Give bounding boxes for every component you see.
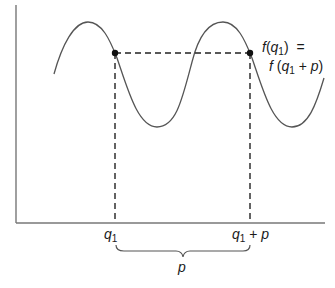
q-symbol: q — [232, 226, 240, 242]
annotation-line-2: f (q1 + p) — [269, 59, 323, 76]
paren-close: ) — [284, 39, 289, 55]
x-label-q1: q1 — [104, 227, 117, 244]
q-symbol: q — [104, 226, 112, 242]
period-label: p — [178, 260, 186, 274]
plus-sign: + — [249, 226, 257, 242]
p-symbol: p — [311, 58, 319, 74]
x-label-q1-plus-p: q1 + p — [232, 227, 269, 244]
paren-close: ) — [319, 58, 324, 74]
p-symbol: p — [261, 226, 269, 242]
subscript: 1 — [289, 65, 295, 76]
point-f-q1-plus-p — [247, 50, 253, 56]
equals-sign: = — [296, 39, 304, 55]
annotation-line-1: f(q1) = — [262, 40, 305, 57]
point-f-q1 — [112, 50, 118, 56]
plus-sign: + — [299, 58, 307, 74]
fn-symbol: f — [269, 58, 273, 74]
period-brace — [116, 245, 250, 257]
subscript: 1 — [112, 233, 118, 244]
subscript: 1 — [240, 233, 246, 244]
